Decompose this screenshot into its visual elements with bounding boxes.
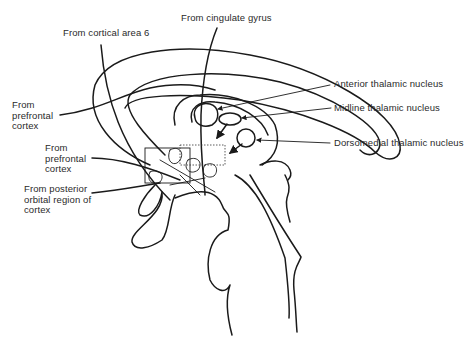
aqueduct (285, 175, 290, 222)
hypophysis (132, 185, 175, 248)
anterior-nucleus (194, 104, 217, 127)
label-prefrontal-lower: From prefrontal cortex (45, 143, 86, 175)
dorsomedial-nucleus (237, 129, 255, 147)
brain-diagram: From cingulate gyrus From cortical area … (0, 0, 472, 349)
label-anterior-thalamic: Anterior thalamic nucleus (334, 79, 443, 90)
brain-sagittal-drawing (0, 0, 472, 349)
label-dorsomedial-thalamic: Dorsomedial thalamic nucleus (334, 138, 464, 149)
brainstem-front (175, 192, 232, 335)
label-cortical-area-6: From cortical area 6 (63, 28, 149, 39)
label-prefrontal-upper: From prefrontal cortex (12, 100, 53, 132)
midline-nucleus (219, 113, 241, 125)
label-midline-thalamic: Midline thalamic nucleus (334, 103, 440, 114)
thalamus-loop (174, 95, 277, 165)
label-posterior-orbital: From posterior orbital region of cortex (24, 184, 91, 216)
label-cingulate-gyrus: From cingulate gyrus (181, 13, 272, 24)
